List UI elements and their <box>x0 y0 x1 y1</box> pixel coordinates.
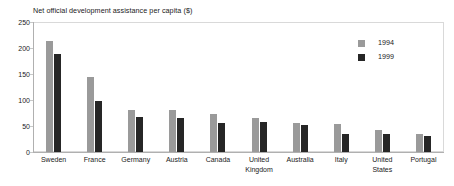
bar[interactable] <box>375 130 382 152</box>
bar[interactable] <box>424 136 431 152</box>
bar[interactable] <box>293 123 300 152</box>
bar-group <box>46 22 61 152</box>
bar[interactable] <box>342 134 349 152</box>
bar[interactable] <box>46 41 53 152</box>
bar-group <box>128 22 143 152</box>
bar-group <box>293 22 308 152</box>
bar-group <box>169 22 184 152</box>
x-tick-label: Portugal <box>397 155 449 165</box>
x-axis-labels: SwedenFranceGermanyAustriaCanadaUnitedKi… <box>33 155 444 186</box>
y-tick-label: 250 <box>2 19 30 26</box>
y-tick-label: 50 <box>2 123 30 130</box>
y-axis-ticks: 050100150200250 <box>0 0 30 186</box>
bar-group <box>87 22 102 152</box>
legend-item-1999[interactable]: 1999 <box>358 52 430 64</box>
x-axis-line <box>33 152 444 153</box>
bar[interactable] <box>383 134 390 152</box>
bar-group <box>334 22 349 152</box>
chart-legend: 1994 1999 <box>358 38 430 66</box>
bar[interactable] <box>136 117 143 152</box>
legend-swatch-1994-icon <box>358 40 365 47</box>
legend-label-1999: 1999 <box>378 52 394 62</box>
chart-figure: Net official development assistance per … <box>0 0 454 186</box>
bar[interactable] <box>301 125 308 152</box>
bar[interactable] <box>54 54 61 152</box>
y-tick-label: 0 <box>2 149 30 156</box>
bar[interactable] <box>177 118 184 152</box>
bar[interactable] <box>260 122 267 152</box>
y-tick-label: 100 <box>2 97 30 104</box>
bar[interactable] <box>416 134 423 152</box>
chart-title: Net official development assistance per … <box>33 6 192 15</box>
bar[interactable] <box>210 114 217 152</box>
y-tick-label: 150 <box>2 71 30 78</box>
y-tick-label: 200 <box>2 45 30 52</box>
bar[interactable] <box>169 110 176 152</box>
bar[interactable] <box>95 101 102 152</box>
bar-group <box>252 22 267 152</box>
bar[interactable] <box>87 77 94 152</box>
bar[interactable] <box>334 124 341 152</box>
legend-swatch-1999-icon <box>358 54 365 61</box>
y-tick-mark <box>30 152 33 153</box>
bar[interactable] <box>218 123 225 152</box>
bar[interactable] <box>128 110 135 152</box>
bar-group <box>210 22 225 152</box>
legend-item-1994[interactable]: 1994 <box>358 38 430 50</box>
legend-label-1994: 1994 <box>378 38 394 48</box>
bar[interactable] <box>252 118 259 152</box>
